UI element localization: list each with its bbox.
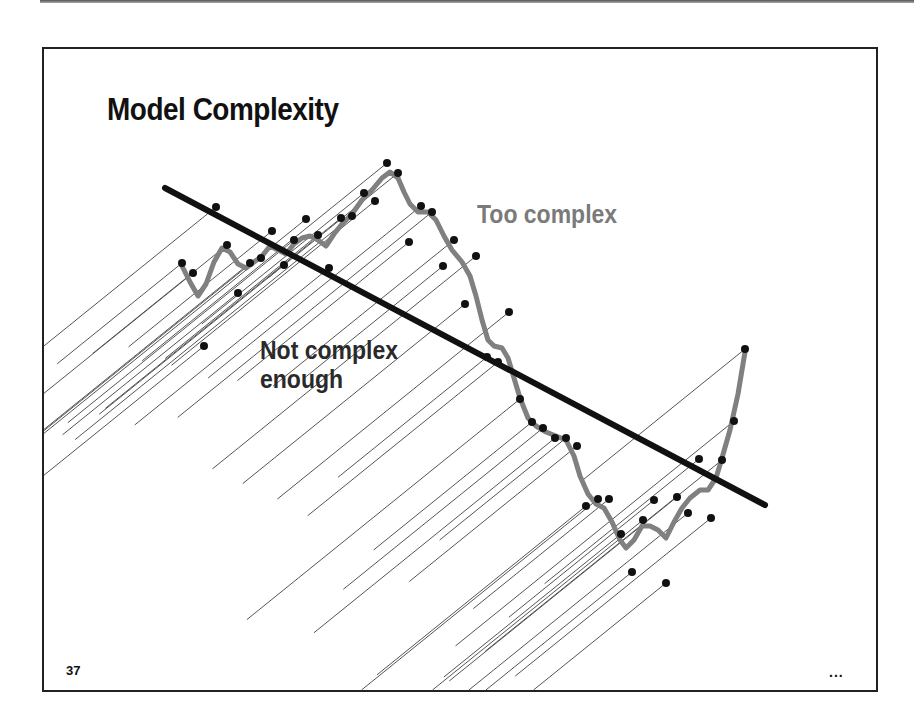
data-point bbox=[394, 169, 402, 177]
data-point bbox=[450, 236, 458, 244]
data-point bbox=[302, 215, 310, 223]
data-point bbox=[405, 238, 413, 246]
page-number: 37 bbox=[66, 663, 80, 678]
data-point bbox=[212, 203, 220, 211]
residual-line bbox=[485, 460, 722, 652]
more-ellipsis: ... bbox=[829, 664, 844, 680]
residual-line bbox=[486, 572, 632, 690]
data-point bbox=[639, 516, 647, 524]
data-point bbox=[268, 227, 276, 235]
residual-line bbox=[362, 499, 599, 690]
data-point bbox=[730, 417, 738, 425]
data-point bbox=[718, 456, 726, 464]
data-point bbox=[628, 568, 636, 576]
residual-line bbox=[440, 438, 566, 540]
residual-line bbox=[57, 263, 182, 364]
residual-line bbox=[63, 293, 239, 435]
data-point bbox=[178, 259, 186, 267]
residual-line bbox=[247, 399, 520, 620]
residual-lines bbox=[44, 163, 745, 690]
data-point bbox=[707, 514, 715, 522]
residual-line bbox=[268, 173, 398, 278]
data-point bbox=[290, 236, 298, 244]
data-point bbox=[673, 493, 681, 501]
residual-line bbox=[444, 534, 621, 677]
data-point bbox=[360, 189, 368, 197]
data-point bbox=[246, 259, 254, 267]
data-point bbox=[200, 342, 208, 350]
data-point bbox=[617, 530, 625, 538]
data-point bbox=[280, 261, 288, 269]
data-point bbox=[428, 208, 436, 216]
data-point bbox=[348, 212, 356, 220]
data-point bbox=[461, 300, 469, 308]
residual-line bbox=[75, 216, 352, 440]
data-point bbox=[516, 395, 524, 403]
data-point bbox=[539, 424, 547, 432]
data-point bbox=[314, 231, 322, 239]
data-point bbox=[695, 455, 703, 463]
residual-line bbox=[409, 446, 577, 582]
data-point bbox=[337, 214, 345, 222]
residual-line bbox=[469, 513, 688, 690]
residual-line bbox=[374, 422, 532, 550]
data-point bbox=[483, 353, 491, 361]
not-complex-label-line2: enough bbox=[260, 365, 398, 394]
data-point bbox=[594, 495, 602, 503]
data-point bbox=[650, 496, 658, 504]
data-point bbox=[494, 358, 502, 366]
data-point bbox=[439, 262, 447, 270]
data-point bbox=[684, 509, 692, 517]
data-point bbox=[383, 159, 391, 167]
data-point bbox=[605, 495, 613, 503]
data-point bbox=[505, 308, 513, 316]
residual-line bbox=[44, 263, 250, 429]
residual-line bbox=[202, 193, 364, 324]
data-point bbox=[562, 434, 570, 442]
data-point bbox=[257, 254, 265, 262]
not-complex-enough-label: Not complex enough bbox=[260, 336, 398, 394]
data-point bbox=[741, 345, 749, 353]
data-point bbox=[573, 442, 581, 450]
data-point bbox=[551, 434, 559, 442]
residual-line bbox=[534, 583, 667, 690]
data-point bbox=[528, 418, 536, 426]
data-point bbox=[223, 241, 231, 249]
not-complex-label-line1: Not complex bbox=[260, 336, 398, 365]
residual-line bbox=[44, 207, 216, 346]
data-point bbox=[472, 252, 480, 260]
data-point bbox=[417, 202, 425, 210]
data-point bbox=[662, 579, 670, 587]
data-point bbox=[189, 269, 197, 277]
data-point bbox=[582, 502, 590, 510]
data-point bbox=[234, 289, 242, 297]
slide-title: Model Complexity bbox=[107, 92, 339, 128]
residual-line bbox=[377, 506, 586, 675]
residual-line bbox=[473, 499, 609, 609]
data-point bbox=[325, 264, 333, 272]
underfit-line bbox=[165, 188, 765, 505]
too-complex-label: Too complex bbox=[477, 200, 617, 229]
residual-line bbox=[44, 258, 261, 433]
data-point bbox=[371, 197, 379, 205]
